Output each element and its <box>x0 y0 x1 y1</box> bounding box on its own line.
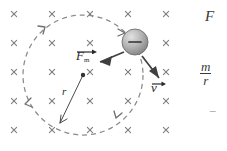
force-label: Fm <box>76 48 89 64</box>
field-cross-icon <box>163 40 168 45</box>
vector-arrow-accent-icon <box>76 48 98 54</box>
field-cross-icon <box>163 127 168 132</box>
velocity-vector-arrow <box>142 56 159 78</box>
field-cross-icon <box>11 127 16 132</box>
field-cross-icon <box>11 11 16 16</box>
field-cross-icon <box>49 40 54 45</box>
field-cross-icon <box>87 40 92 45</box>
field-cross-icon <box>11 40 16 45</box>
field-cross-icon <box>49 98 54 103</box>
equation-line-3: − <box>208 104 217 120</box>
charged-particle <box>122 29 148 55</box>
field-cross-icon <box>49 69 54 74</box>
field-cross-icon <box>125 127 130 132</box>
velocity-label: v <box>151 80 157 96</box>
field-cross-icon <box>87 98 92 103</box>
field-cross-icon <box>87 69 92 74</box>
vector-arrow-accent-icon <box>151 80 167 86</box>
field-cross-icon <box>125 69 130 74</box>
field-cross-icon <box>11 98 16 103</box>
field-cross-icon <box>125 98 130 103</box>
figure-canvas: Fm v r F m r − <box>0 0 227 151</box>
equation-denominator: r <box>200 74 211 87</box>
radius-label: r <box>62 85 66 97</box>
orbit-center-dot <box>81 73 85 77</box>
diagram-svg <box>0 0 227 151</box>
field-cross-icon <box>87 127 92 132</box>
force-subscript: m <box>84 56 89 64</box>
field-cross-icon <box>125 11 130 16</box>
magnetic-field-grid <box>11 11 168 132</box>
equation-line-2: m r <box>200 60 211 89</box>
field-cross-icon <box>49 11 54 16</box>
field-cross-icon <box>163 98 168 103</box>
field-cross-icon <box>163 11 168 16</box>
orbit-direction-arrowheads <box>25 26 125 118</box>
field-cross-icon <box>11 69 16 74</box>
equation-line-1: F <box>205 8 214 25</box>
field-cross-icon <box>49 127 54 132</box>
equation-numerator: m <box>200 60 211 74</box>
force-vector-arrow <box>100 52 124 66</box>
radius-indicator <box>60 73 85 123</box>
field-cross-icon <box>163 69 168 74</box>
